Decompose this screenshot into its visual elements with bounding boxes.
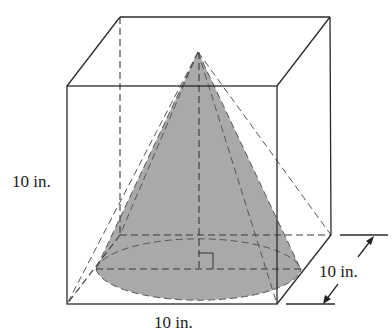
cube-back-right-vertical <box>330 17 331 235</box>
cone-in-cube-diagram: 10 in. 10 in. 10 in. <box>0 0 392 334</box>
height-label: 10 in. <box>12 172 51 191</box>
arrowhead-up-icon <box>366 236 374 245</box>
depth-label: 10 in. <box>319 262 358 281</box>
width-label: 10 in. <box>154 313 193 332</box>
arrowhead-down-icon <box>323 295 331 304</box>
cone <box>96 52 301 300</box>
cube-top-left-depth <box>67 17 120 86</box>
cube-top-right-depth <box>277 17 330 86</box>
